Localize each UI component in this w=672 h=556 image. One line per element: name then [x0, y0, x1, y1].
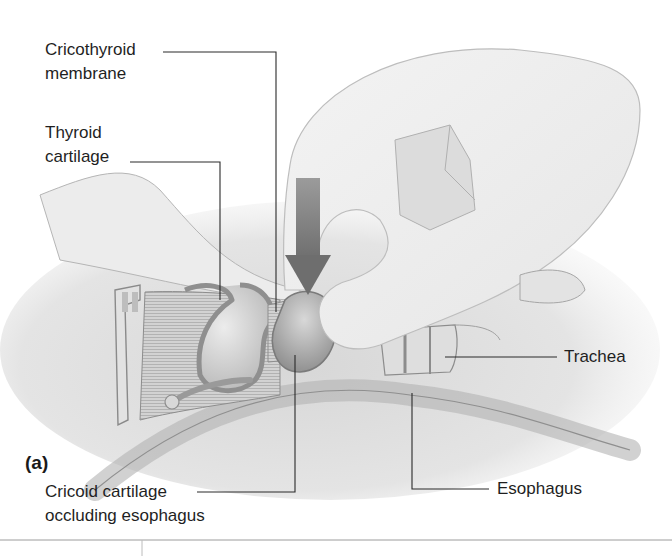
divider: [0, 540, 672, 556]
label-line: Trachea: [564, 345, 626, 369]
label-trachea: Trachea: [564, 345, 626, 369]
label-cricothyroid-membrane: Cricothyroid membrane: [45, 38, 136, 86]
label-line: cartilage: [45, 145, 109, 169]
label-line: membrane: [45, 62, 136, 86]
label-line: Thyroid: [45, 121, 109, 145]
label-line: Cricoid cartilage: [45, 480, 205, 504]
label-line: Esophagus: [497, 477, 582, 501]
label-cricoid-cartilage: Cricoid cartilage occluding esophagus: [45, 480, 205, 528]
label-thyroid-cartilage: Thyroid cartilage: [45, 121, 109, 169]
label-line: Cricothyroid: [45, 38, 136, 62]
label-line: occluding esophagus: [45, 504, 205, 528]
label-esophagus: Esophagus: [497, 477, 582, 501]
panel-label: (a): [25, 452, 48, 474]
